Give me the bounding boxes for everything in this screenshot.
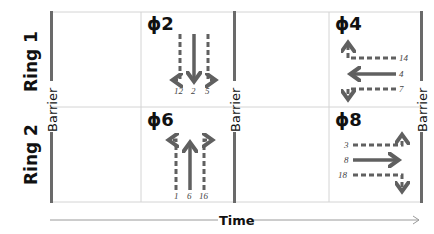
phase-6: ϕ6 1 6 16 <box>147 109 211 201</box>
phase-8-right-movement: 18 <box>338 170 348 180</box>
phase-6-label: ϕ6 <box>147 109 174 130</box>
time-axis: Time <box>50 213 419 228</box>
phase-8: ϕ8 3 8 18 <box>335 109 402 190</box>
barrier-left-label: Barrier <box>45 87 60 132</box>
phase-4-right-turn-arrow <box>348 89 396 98</box>
phase-4-left-movement: 14 <box>399 53 409 63</box>
phase-4-left-turn-arrow <box>348 44 396 58</box>
ring-barrier-diagram: Barrier Barrier Barrier Ring 1 Ring 2 ϕ2… <box>0 0 434 234</box>
phase-6-left-turn-arrow <box>170 140 176 190</box>
phase-6-right-movement: 16 <box>199 191 209 201</box>
barrier-right-label: Barrier <box>415 87 430 132</box>
phase-8-label: ϕ8 <box>335 109 362 130</box>
phase-4-label: ϕ4 <box>335 13 362 34</box>
barrier-middle-top <box>233 11 236 81</box>
phase-6-right-turn-arrow <box>204 140 211 190</box>
phase-2-label: ϕ2 <box>147 13 174 34</box>
phase-2-through-movement: 2 <box>191 86 196 96</box>
phase-6-left-movement: 1 <box>174 191 179 201</box>
phase-2-right-turn-arrow <box>208 34 214 80</box>
barrier-left-top <box>50 11 53 81</box>
phase-8-left-movement: 3 <box>343 140 349 150</box>
phase-4-arrows <box>348 44 396 98</box>
phase-8-left-turn-arrow <box>353 136 402 145</box>
phase-2-arrows <box>174 34 214 80</box>
ring-1-label: Ring 1 <box>21 31 41 92</box>
barrier-middle-bottom <box>233 132 236 203</box>
phase-4-through-movement: 4 <box>399 69 404 79</box>
ring-2-label: Ring 2 <box>21 124 41 185</box>
phase-6-arrows <box>170 140 211 190</box>
time-axis-label: Time <box>219 213 255 228</box>
barrier-middle-label: Barrier <box>228 87 243 132</box>
phase-8-arrows <box>353 136 402 190</box>
phase-2-left-turn-arrow <box>174 34 180 80</box>
phase-4-right-movement: 7 <box>399 84 404 94</box>
phase-2-left-movement: 12 <box>174 86 184 96</box>
phase-2-right-movement: 5 <box>205 86 210 96</box>
phase-2: ϕ2 12 2 5 <box>147 13 214 96</box>
barrier-right-bottom <box>420 132 423 203</box>
phase-6-through-movement: 6 <box>187 191 192 201</box>
phase-8-right-turn-arrow <box>353 175 402 190</box>
phase-4: ϕ4 14 4 7 <box>335 13 409 98</box>
barrier-right-top <box>420 11 423 81</box>
barrier-left-bottom <box>50 132 53 203</box>
phase-8-through-movement: 8 <box>344 155 349 165</box>
